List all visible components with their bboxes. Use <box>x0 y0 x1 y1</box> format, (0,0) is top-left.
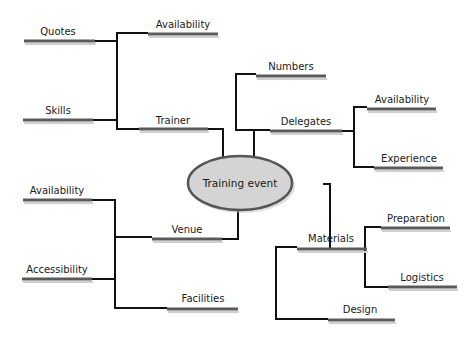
branch-label-venue: Venue <box>171 224 202 235</box>
leaf-label-trainer-availability: Availability <box>156 19 211 30</box>
leaf-label-preparation: Preparation <box>387 213 445 224</box>
branch-delegates: Delegates Numbers Availability Experienc… <box>256 61 444 171</box>
branch-trainer: Trainer Availability Quotes Skills <box>23 19 219 132</box>
leaf-label-delegates-availability: Availability <box>375 94 430 105</box>
leaf-label-numbers: Numbers <box>268 61 313 72</box>
mind-map-diagram: Training event Trainer Availability Quot… <box>0 0 476 337</box>
leaf-label-accessibility: Accessibility <box>26 264 88 275</box>
leaf-label-quotes: Quotes <box>40 26 76 37</box>
center-node-label: Training event <box>202 177 278 189</box>
leaf-label-facilities: Facilities <box>182 293 225 304</box>
branch-label-materials: Materials <box>308 233 354 244</box>
branch-materials: Materials Preparation Logistics Design <box>297 213 458 323</box>
leaf-label-venue-availability: Availability <box>30 185 85 196</box>
branch-label-trainer: Trainer <box>155 115 191 126</box>
center-node: Training event <box>188 156 295 213</box>
leaf-label-skills: Skills <box>45 105 71 116</box>
leaf-label-experience: Experience <box>381 153 437 164</box>
leaf-label-logistics: Logistics <box>400 272 443 283</box>
leaf-label-design: Design <box>343 304 378 315</box>
mind-map-canvas: Training event Trainer Availability Quot… <box>0 0 476 337</box>
branch-label-delegates: Delegates <box>281 116 332 127</box>
